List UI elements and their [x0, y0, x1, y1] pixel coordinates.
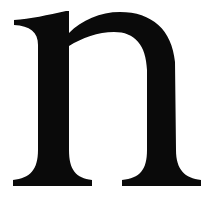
letter-n-glyph	[0, 0, 216, 201]
